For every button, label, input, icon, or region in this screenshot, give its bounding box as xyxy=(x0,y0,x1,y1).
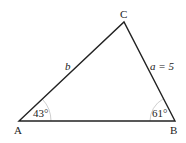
vertex-b-label: B xyxy=(170,124,177,136)
side-b-label: b xyxy=(65,60,71,72)
angle-b-label: 61° xyxy=(152,107,167,119)
vertex-a-label: A xyxy=(14,124,22,136)
triangle-diagram: A B C b a = 5 43° 61° xyxy=(0,0,186,143)
vertex-c-label: C xyxy=(120,8,127,20)
side-a-label: a = 5 xyxy=(150,60,174,72)
angle-a-label: 43° xyxy=(33,107,48,119)
